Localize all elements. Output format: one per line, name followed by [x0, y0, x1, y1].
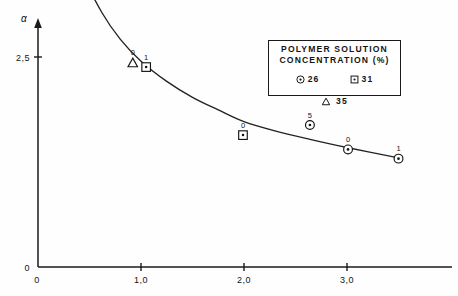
legend-entry-31: 31 [350, 70, 374, 88]
legend-entry-35: 35 [321, 92, 348, 110]
y-axis-arrowhead [34, 18, 42, 28]
chart-figure: 01,02,03,0 02,55,0 α 501510510 POLYMER S… [0, 0, 458, 296]
x-tick-label-1: 1,0 [134, 275, 148, 285]
legend-title-line-1: POLYMER SOLUTION [269, 45, 400, 54]
marker-square-dot [142, 63, 151, 72]
y-axis-tick-labels: 02,55,0 [16, 0, 30, 273]
point-label-1-2: 0 [241, 121, 245, 130]
point-label-0-0: 5 [308, 111, 312, 120]
legend-label-35: 35 [336, 96, 348, 106]
point-label-1-1: 1 [144, 53, 148, 62]
point-label-0-2: 1 [396, 144, 400, 153]
marker-circle-dot [394, 154, 403, 163]
x-tick-label-3: 3,0 [340, 275, 354, 285]
legend-box: POLYMER SOLUTION CONCENTRATION (%) 26 [268, 40, 401, 96]
y-tick-label-1: 2,5 [16, 53, 30, 63]
marker-square-dot [239, 131, 248, 140]
legend-title-line-2: CONCENTRATION (%) [269, 56, 400, 65]
circle-dot-icon [296, 70, 305, 88]
point-label-2-2: 0 [131, 48, 135, 57]
y-tick-label-0: 0 [24, 263, 30, 273]
legend-entries-row-2: 35 [269, 92, 400, 110]
x-tick-label-0: 0 [34, 275, 40, 285]
marker-circle-dot [306, 121, 315, 130]
marker-circle-dot [344, 145, 353, 154]
x-tick-label-2: 2,0 [237, 275, 251, 285]
legend-entry-26: 26 [296, 70, 320, 88]
square-dot-icon [350, 70, 359, 88]
y-axis-label-alpha: α [21, 13, 27, 24]
marker-triangle [128, 58, 138, 67]
point-label-0-1: 0 [346, 135, 350, 144]
legend-label-26: 26 [308, 74, 320, 84]
triangle-icon [321, 92, 331, 110]
x-axis-tick-labels: 01,02,03,0 [34, 275, 354, 285]
legend-label-31: 31 [362, 74, 374, 84]
legend-entries-row-1: 26 31 [269, 70, 400, 88]
